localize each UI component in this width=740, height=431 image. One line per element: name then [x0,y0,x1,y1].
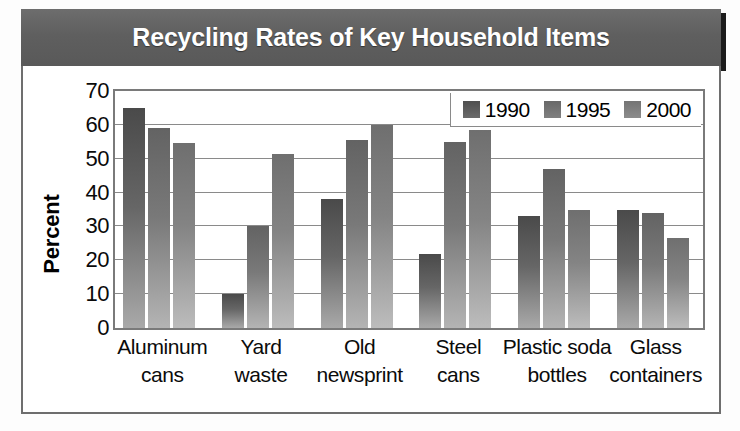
bar [419,254,441,328]
bar [543,169,565,328]
y-tick-label: 20 [86,247,109,273]
bar [617,210,639,329]
y-tick-label: 10 [86,281,109,307]
legend-swatch [544,101,561,118]
legend-item: 1995 [544,98,611,122]
bar [667,238,689,328]
y-tick-label: 60 [86,112,109,138]
title-band-shadow-right [721,13,726,71]
bar [272,154,294,328]
legend-swatch [463,101,480,118]
bar [469,130,491,328]
bar [642,213,664,328]
x-axis-labels: AluminumcansYardwasteOldnewsprintSteelca… [113,333,705,403]
bar [173,143,195,328]
title-bar: Recycling Rates of Key Household Items [21,9,721,66]
figure-root: Recycling Rates of Key Household Items P… [0,0,740,431]
bar [371,125,393,328]
legend-label: 2000 [646,98,691,122]
bar [568,210,590,329]
bar-group [312,91,411,328]
legend-item: 2000 [624,98,691,122]
x-tick-label-line1: Steel [435,335,481,358]
legend-swatch [624,101,641,118]
bar-group [115,91,214,328]
legend-item: 1990 [463,98,530,122]
chart-title: Recycling Rates of Key Household Items [132,23,609,52]
bar [518,216,540,328]
bar-group [214,91,313,328]
bar [346,140,368,328]
plot-wrapper: Percent 010203040506070 199019952000 Alu… [21,71,721,414]
y-tick-label: 70 [86,78,109,104]
legend: 199019952000 [450,93,701,127]
x-tick-label-line1: Old [344,335,375,358]
x-tick-label-line1: Glass [630,335,682,358]
y-axis-ticks: 010203040506070 [59,89,109,330]
y-tick-label: 30 [86,213,109,239]
bar [123,108,145,328]
x-tick-label-line1: Aluminum [117,335,207,358]
x-tick-label-line1: Yard [240,335,281,358]
bar [247,226,269,328]
x-tick-label-line2: containers [592,361,719,389]
y-tick-label: 50 [86,146,109,172]
bar [222,294,244,328]
bar [444,142,466,328]
plot-area: 199019952000 [113,89,705,330]
bar [148,128,170,328]
legend-label: 1995 [566,98,611,122]
x-tick-label: Glasscontainers [592,333,719,389]
y-tick-label: 40 [86,180,109,206]
bar [321,199,343,328]
legend-label: 1990 [485,98,530,122]
